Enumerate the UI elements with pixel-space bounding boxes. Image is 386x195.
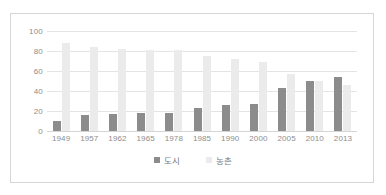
bar-groups xyxy=(47,31,357,131)
legend-label-urban: 도시 xyxy=(164,154,180,166)
x-axis-tick-label: 1985 xyxy=(188,134,216,143)
y-axis-tick-label: 20 xyxy=(34,107,43,116)
plot-area xyxy=(47,31,357,131)
bar-urban[interactable] xyxy=(81,115,89,131)
x-axis: 1949195719621965197819851990200020052010… xyxy=(47,134,357,143)
bar-rural[interactable] xyxy=(90,47,98,131)
chart-legend: 도시 농촌 xyxy=(11,154,375,166)
bar-urban[interactable] xyxy=(250,104,258,131)
legend-label-rural: 농촌 xyxy=(216,154,232,166)
bar-group xyxy=(75,31,103,131)
bar-urban[interactable] xyxy=(53,121,61,131)
bar-group xyxy=(47,31,75,131)
bar-urban[interactable] xyxy=(137,113,145,131)
legend-item-urban[interactable]: 도시 xyxy=(154,154,180,166)
bar-rural[interactable] xyxy=(62,43,70,131)
y-axis: 020406080100 xyxy=(17,31,43,131)
chart-container: 020406080100 194919571962196519781985199… xyxy=(10,13,374,183)
bar-group xyxy=(273,31,301,131)
bar-group xyxy=(103,31,131,131)
x-axis-tick-label: 2005 xyxy=(273,134,301,143)
bar-group xyxy=(216,31,244,131)
bar-group xyxy=(244,31,272,131)
legend-item-rural[interactable]: 농촌 xyxy=(206,154,232,166)
x-axis-tick-label: 1990 xyxy=(216,134,244,143)
x-axis-tick-label: 1978 xyxy=(160,134,188,143)
bar-rural[interactable] xyxy=(118,49,126,131)
bar-group xyxy=(132,31,160,131)
bar-urban[interactable] xyxy=(109,114,117,131)
x-axis-tick-label: 2013 xyxy=(329,134,357,143)
bar-group xyxy=(301,31,329,131)
bar-urban[interactable] xyxy=(306,81,314,131)
bar-rural[interactable] xyxy=(231,59,239,131)
x-axis-tick-label: 2000 xyxy=(244,134,272,143)
x-axis-tick-label: 1962 xyxy=(103,134,131,143)
bar-group xyxy=(329,31,357,131)
bar-rural[interactable] xyxy=(287,74,295,131)
y-axis-tick-label: 0 xyxy=(38,127,43,136)
bar-rural[interactable] xyxy=(343,85,351,131)
y-axis-tick-label: 80 xyxy=(34,47,43,56)
bar-urban[interactable] xyxy=(334,77,342,131)
bar-rural[interactable] xyxy=(203,56,211,131)
bar-group xyxy=(160,31,188,131)
legend-swatch-urban-icon xyxy=(154,157,160,163)
x-axis-tick-label: 1949 xyxy=(47,134,75,143)
y-axis-tick-label: 100 xyxy=(29,27,43,36)
bar-rural[interactable] xyxy=(174,50,182,131)
x-axis-tick-label: 2010 xyxy=(301,134,329,143)
bar-urban[interactable] xyxy=(165,113,173,131)
bar-rural[interactable] xyxy=(259,62,267,131)
x-axis-tick-label: 1965 xyxy=(132,134,160,143)
chart-plot-wrapper: 020406080100 194919571962196519781985199… xyxy=(11,14,375,184)
x-axis-tick-label: 1957 xyxy=(75,134,103,143)
bar-urban[interactable] xyxy=(222,105,230,131)
legend-swatch-rural-icon xyxy=(206,157,212,163)
bar-urban[interactable] xyxy=(278,88,286,131)
bar-rural[interactable] xyxy=(146,50,154,131)
y-axis-tick-label: 60 xyxy=(34,67,43,76)
gridline xyxy=(47,131,357,132)
bar-group xyxy=(188,31,216,131)
bar-rural[interactable] xyxy=(315,81,323,131)
y-axis-tick-label: 40 xyxy=(34,87,43,96)
bar-urban[interactable] xyxy=(194,108,202,131)
